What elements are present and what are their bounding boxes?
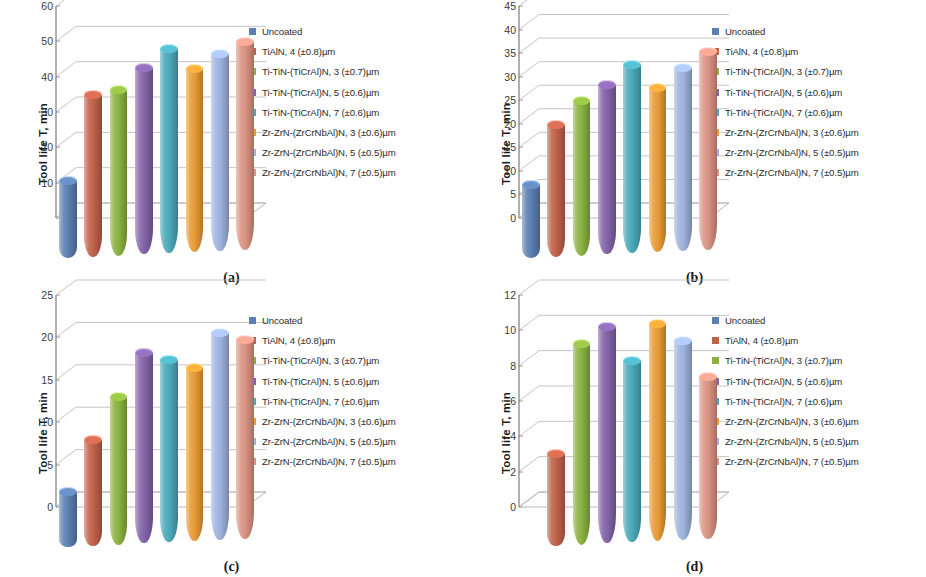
legend-label: Ti-TiN-(TiCrAl)N, 7 (±0.6)µm xyxy=(262,107,379,118)
bar-cylinder xyxy=(522,185,540,258)
bar-cylinder xyxy=(211,53,229,251)
bar-cylinder-top xyxy=(59,176,77,185)
legend-item: Uncoated xyxy=(249,315,459,326)
y-tick-label: 6 xyxy=(510,395,516,407)
legend-label: TiAlN, 4 (±0.8)µm xyxy=(262,46,335,57)
y-axis-ticks: 024681012 xyxy=(489,295,519,507)
bar-cylinder-shading xyxy=(674,340,692,540)
bar-cylinder-shading xyxy=(649,324,667,541)
legend-item: Ti-TiN-(TiCrAl)N, 5 (±0.6)µm xyxy=(249,87,459,98)
legend-label: Zr-ZrN-(ZrCrNbAl)N, 3 (±0.6)µm xyxy=(262,127,396,138)
legend-item: Ti-TiN-(TiCrAl)N, 5 (±0.6)µm xyxy=(712,87,922,98)
bar-cylinder-shading xyxy=(598,326,616,543)
bar-cylinder-top xyxy=(160,44,178,53)
legend-item: Uncoated xyxy=(712,315,922,326)
bar-cylinder-top xyxy=(699,372,717,381)
y-axis-ticks: 051015202530354045 xyxy=(489,6,519,218)
legend-item: Ti-TiN-(TiCrAl)N, 3 (±0.7)µm xyxy=(712,355,922,366)
legend-item: Zr-ZrN-(ZrCrNbAl)N, 7 (±0.5)µm xyxy=(249,167,459,178)
bar-cylinder-shading xyxy=(135,67,153,254)
legend-swatch xyxy=(249,317,256,324)
bar-group xyxy=(56,46,246,258)
legend-swatch xyxy=(712,317,719,324)
bar-cylinder-shading xyxy=(211,53,229,251)
bar-cylinder xyxy=(623,65,641,253)
bar-cylinder xyxy=(160,48,178,253)
bar-cylinder-shading xyxy=(699,376,717,539)
bar-cylinder xyxy=(160,360,178,542)
legend-label: Ti-TiN-(TiCrAl)N, 3 (±0.7)µm xyxy=(262,355,379,366)
legend-item: Zr-ZrN-(ZrCrNbAl)N, 7 (±0.5)µm xyxy=(249,456,459,467)
bar-cylinder xyxy=(674,67,692,251)
legend-item: Ti-TiN-(TiCrAl)N, 5 (±0.6)µm xyxy=(712,376,922,387)
legend-item: Zr-ZrN-(ZrCrNbAl)N, 3 (±0.6)µm xyxy=(249,416,459,427)
legend-label: Zr-ZrN-(ZrCrNbAl)N, 3 (±0.6)µm xyxy=(262,416,396,427)
bar-cylinder-shading xyxy=(598,85,616,255)
bar-group xyxy=(519,335,709,547)
bar-cylinder-top xyxy=(186,363,204,372)
panel-label-b: (b) xyxy=(463,270,926,286)
bar-cylinder-shading xyxy=(110,396,128,544)
legend-item: Ti-TiN-(TiCrAl)N, 7 (±0.6)µm xyxy=(712,396,922,407)
legend-swatch xyxy=(249,28,256,35)
bar-cylinder xyxy=(84,440,102,546)
legend-label: Zr-ZrN-(ZrCrNbAl)N, 5 (±0.5)µm xyxy=(262,436,396,447)
bar-cylinder xyxy=(236,41,254,249)
y-axis-ticks: 0510152025 xyxy=(26,295,56,507)
bar-cylinder xyxy=(186,367,204,541)
y-tick-label: 35 xyxy=(504,47,516,59)
legend-label: Ti-TiN-(TiCrAl)N, 3 (±0.7)µm xyxy=(725,66,842,77)
legend-item: Zr-ZrN-(ZrCrNbAl)N, 5 (±0.5)µm xyxy=(712,147,922,158)
bar-cylinder-shading xyxy=(59,180,77,258)
legend-label: TiAlN, 4 (±0.8)µm xyxy=(725,46,798,57)
bar-cylinder xyxy=(59,180,77,258)
panel-label-c: (c) xyxy=(0,559,463,575)
legend-item: Zr-ZrN-(ZrCrNbAl)N, 3 (±0.6)µm xyxy=(712,127,922,138)
legend-item: Ti-TiN-(TiCrAl)N, 3 (±0.7)µm xyxy=(249,355,459,366)
bar-cylinder-top xyxy=(186,64,204,73)
plot-area-c: 0510152025 xyxy=(26,295,248,547)
y-tick-label: 0 xyxy=(47,501,53,513)
panel-label-a: (a) xyxy=(0,270,463,286)
bar-cylinder xyxy=(110,90,128,256)
legend-label: Zr-ZrN-(ZrCrNbAl)N, 5 (±0.5)µm xyxy=(725,436,859,447)
bar-cylinder xyxy=(699,52,717,250)
y-tick-label: 2 xyxy=(510,466,516,478)
legend-item: Uncoated xyxy=(712,26,922,37)
legend-label: Ti-TiN-(TiCrAl)N, 7 (±0.6)µm xyxy=(725,396,842,407)
legend-item: TiAlN, 4 (±0.8)µm xyxy=(249,335,459,346)
y-tick-label: 30 xyxy=(41,106,53,118)
y-tick-label: 10 xyxy=(504,324,516,336)
legend-label: Zr-ZrN-(ZrCrNbAl)N, 7 (±0.5)µm xyxy=(725,167,859,178)
legend-label: Ti-TiN-(TiCrAl)N, 3 (±0.7)µm xyxy=(725,355,842,366)
y-tick-label: 5 xyxy=(510,188,516,200)
legend: UncoatedTiAlN, 4 (±0.8)µmTi-TiN-(TiCrAl)… xyxy=(712,315,922,477)
bar-cylinder xyxy=(110,396,128,544)
legend-label: Zr-ZrN-(ZrCrNbAl)N, 3 (±0.6)µm xyxy=(725,416,859,427)
y-tick-label: 15 xyxy=(504,141,516,153)
bar-group xyxy=(56,335,246,547)
plot-area-a: 102030405060 xyxy=(26,6,248,258)
y-tick-label: 0 xyxy=(510,212,516,224)
legend-item: Ti-TiN-(TiCrAl)N, 7 (±0.6)µm xyxy=(249,396,459,407)
bar-cylinder-top xyxy=(135,348,153,357)
bar-cylinder-top xyxy=(649,83,667,92)
y-axis-ticks: 102030405060 xyxy=(26,6,56,218)
bar-cylinder-top xyxy=(236,335,254,344)
bar-cylinder-top xyxy=(135,63,153,72)
legend-label: TiAlN, 4 (±0.8)µm xyxy=(725,335,798,346)
bar-cylinder-top xyxy=(236,37,254,46)
bar-cylinder-top xyxy=(674,336,692,345)
legend-label: Uncoated xyxy=(725,315,765,326)
bar-cylinder-shading xyxy=(547,454,565,546)
y-tick-label: 12 xyxy=(504,289,516,301)
legend-swatch xyxy=(712,357,719,364)
bar-cylinder-shading xyxy=(623,65,641,253)
bar-cylinder-top xyxy=(573,96,591,105)
legend-label: Ti-TiN-(TiCrAl)N, 5 (±0.6)µm xyxy=(262,87,379,98)
legend-item: Zr-ZrN-(ZrCrNbAl)N, 5 (±0.5)µm xyxy=(249,436,459,447)
chart-panel-c: Tool life T, min 0510152025 UncoatedTiAl… xyxy=(0,289,463,577)
bar-cylinder xyxy=(135,353,153,544)
y-tick-label: 20 xyxy=(504,118,516,130)
bar-cylinder xyxy=(598,326,616,543)
